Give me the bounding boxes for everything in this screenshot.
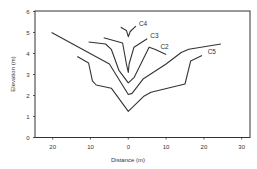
y-tick-label: 2 [26, 93, 30, 99]
chart: 0123456 20100102030 C5C2C3C4 Distance (m… [0, 0, 257, 169]
x-tick-label: 20 [49, 144, 56, 150]
y-tick-label: 1 [26, 114, 30, 120]
x-tick-label: 10 [163, 144, 170, 150]
series-line-c2 [89, 42, 167, 83]
series-label-c2: C2 [160, 43, 169, 50]
y-tick-label: 6 [26, 9, 30, 15]
x-tick-label: 20 [201, 144, 208, 150]
series-label-c4: C4 [139, 20, 148, 27]
y-axis: 0123456 [26, 9, 35, 141]
series-line-unlabeled [52, 33, 221, 95]
x-tick-label: 30 [238, 144, 245, 150]
series-group: C5C2C3C4 [52, 20, 221, 111]
y-axis-title: Elevation (m) [10, 56, 16, 91]
x-tick-label: 0 [127, 144, 131, 150]
x-axis-title: Distance (m) [111, 157, 145, 163]
series-line-c4 [121, 26, 136, 37]
series-label-c5: C5 [208, 48, 217, 55]
plot-frame [35, 11, 250, 138]
y-tick-label: 3 [26, 72, 30, 78]
series-label-c3: C3 [150, 32, 159, 39]
y-tick-label: 0 [26, 135, 30, 141]
series-line-c3 [104, 38, 148, 73]
x-tick-label: 10 [87, 144, 94, 150]
x-axis: 20100102030 [49, 138, 245, 151]
y-tick-label: 4 [26, 51, 30, 57]
y-tick-label: 5 [26, 30, 30, 36]
